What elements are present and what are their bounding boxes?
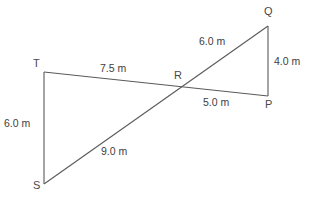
length-label-TR: 7.5 m <box>100 63 126 74</box>
length-label-QP: 4.0 m <box>274 56 300 67</box>
vertex-label-P: P <box>265 99 272 110</box>
vertex-label-T: T <box>33 58 40 69</box>
length-label-QR: 6.0 m <box>199 36 225 47</box>
vertex-label-S: S <box>33 180 40 191</box>
length-label-RP: 5.0 m <box>203 97 229 108</box>
segment-SQ <box>44 26 268 184</box>
vertex-label-R: R <box>174 70 182 81</box>
length-label-SR: 9.0 m <box>101 146 127 157</box>
vertex-label-Q: Q <box>264 6 273 17</box>
length-label-TS: 6.0 m <box>4 118 30 129</box>
segment-TP <box>44 72 268 96</box>
geometry-diagram: T S R Q P 7.5 m 6.0 m 9.0 m 6.0 m 4.0 m … <box>0 0 311 203</box>
